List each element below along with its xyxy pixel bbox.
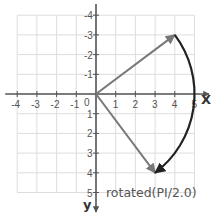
x-tick-label: -4 [11, 99, 20, 110]
x-tick-label: -3 [31, 99, 40, 110]
y-tick-label: 2 [87, 128, 93, 139]
y-tick-label: -3 [84, 30, 93, 41]
y-tick-label: 4 [87, 168, 93, 179]
origin-label: 0 [84, 97, 90, 108]
grid-lines [17, 15, 194, 192]
y-tick-label: 3 [87, 148, 93, 159]
x-tick-label: 1 [113, 99, 119, 110]
y-tick-label: 1 [87, 109, 93, 120]
x-tick-label: -1 [70, 99, 79, 110]
x-tick-label: -2 [51, 99, 60, 110]
vector-rotation-diagram: -4-3-2-112345-4-3-2-112345 0 X y rotated… [0, 0, 215, 216]
y-axis-label: y [83, 197, 92, 212]
y-tick-label: -1 [84, 69, 93, 80]
rotation-caption: rotated(PI/2.0) [106, 185, 197, 200]
y-tick-label: -2 [84, 50, 93, 61]
x-axis-label: X [201, 92, 211, 107]
x-tick-label: 2 [132, 99, 138, 110]
y-tick-label: -4 [84, 10, 93, 21]
x-tick-label: 3 [152, 99, 158, 110]
x-tick-label: 4 [172, 99, 178, 110]
